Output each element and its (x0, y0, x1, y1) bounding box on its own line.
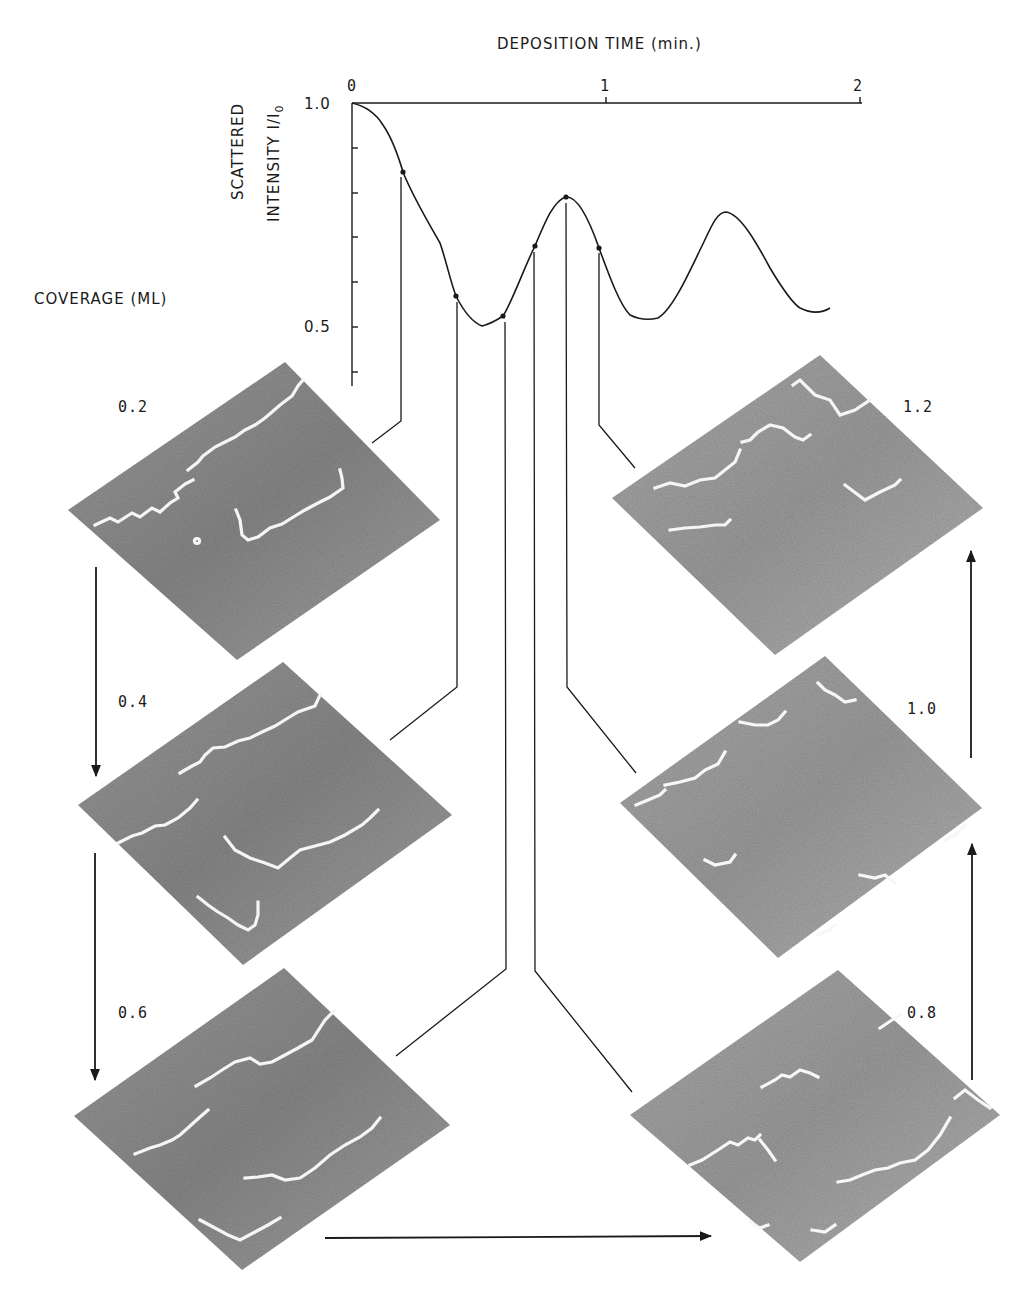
marker-0.6 (500, 313, 505, 318)
y-tick-label-1.0: 1.0 (304, 95, 331, 113)
marker-0.8 (532, 243, 537, 248)
intensity-curve (352, 103, 830, 326)
connector-1.2 (599, 253, 635, 468)
connector-0.8 (534, 252, 632, 1092)
panel-label-0.6: 0.6 (118, 1004, 148, 1022)
panel-label-1.0: 1.0 (907, 700, 937, 718)
panel-label-1.2: 1.2 (903, 398, 933, 416)
marker-0.2 (400, 169, 405, 174)
connector-0.6 (396, 322, 506, 1056)
connector-0.2 (372, 177, 401, 443)
curve-markers (400, 169, 601, 318)
x-axis-title: DEPOSITION TIME (min.) (497, 35, 702, 53)
y-axis-title-line2: INTENSITY I/I0 (265, 105, 286, 222)
figure-canvas (0, 0, 1027, 1292)
panel-label-0.2: 0.2 (118, 398, 148, 416)
marker-1.2 (596, 245, 601, 250)
marker-0.4 (453, 293, 458, 298)
chart-axes (352, 97, 862, 386)
panel-label-0.4: 0.4 (118, 693, 148, 711)
arrow-0.6-to-0.8 (325, 1236, 711, 1238)
coverage-title: COVERAGE (ML) (34, 290, 167, 308)
y-axis-title-subscript: 0 (273, 105, 286, 113)
surface-panel-0.8 (630, 970, 1000, 1262)
panel-label-0.8: 0.8 (907, 1004, 937, 1022)
connector-1.0 (566, 203, 636, 773)
x-tick-label-1: 1 (600, 77, 610, 95)
y-tick-label-0.5: 0.5 (304, 318, 331, 336)
x-tick-label-2: 2 (853, 77, 863, 95)
y-axis-title-text: INTENSITY I/I (265, 113, 283, 222)
y-axis-title-line1: SCATTERED (229, 103, 247, 200)
marker-1.0 (563, 194, 568, 199)
x-tick-label-0: 0 (347, 77, 357, 95)
